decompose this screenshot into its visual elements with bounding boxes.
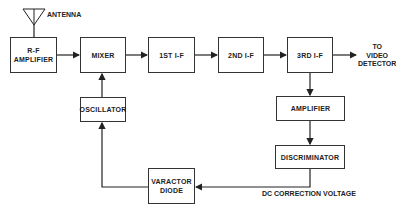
discriminator-block: DISCRIMINATOR (275, 145, 345, 169)
dc-correction-label: DC CORRECTION VOLTAGE (262, 190, 356, 199)
antenna-label: ANTENNA (47, 11, 81, 20)
output-label-line1: TO (358, 43, 396, 52)
oscillator-block: OSCILLATOR (80, 97, 126, 122)
if3-label: 3RD I-F (297, 51, 323, 60)
if3-block: 3RD I-F (287, 37, 333, 73)
output-label: TO VIDEO DETECTOR (358, 43, 396, 69)
mixer-label: MIXER (91, 51, 114, 60)
rf-amplifier-label-2: AMPLIFIER (14, 55, 54, 64)
amplifier-label: AMPLIFIER (291, 104, 331, 113)
if1-block: 1ST I-F (148, 37, 195, 73)
rf-amplifier-block: R-F AMPLIFIER (10, 37, 57, 73)
mixer-block: MIXER (80, 37, 126, 73)
arrow-varactor-to-oscillator (102, 123, 148, 187)
arrow-discriminator-to-varactor (196, 169, 310, 187)
if2-label: 2ND I-F (228, 51, 254, 60)
if2-block: 2ND I-F (218, 37, 264, 73)
varactor-label-1: VARACTOR (151, 177, 192, 186)
if1-label: 1ST I-F (159, 51, 184, 60)
varactor-diode-block: VARACTOR DIODE (148, 168, 195, 204)
oscillator-label: OSCILLATOR (80, 105, 127, 114)
rf-amplifier-label-1: R-F (14, 46, 54, 55)
varactor-label-2: DIODE (151, 186, 192, 195)
output-label-line3: DETECTOR (358, 60, 396, 69)
antenna-icon (23, 9, 45, 37)
amplifier-block: AMPLIFIER (276, 96, 345, 121)
discriminator-label: DISCRIMINATOR (281, 153, 339, 162)
output-label-line2: VIDEO (358, 52, 396, 61)
